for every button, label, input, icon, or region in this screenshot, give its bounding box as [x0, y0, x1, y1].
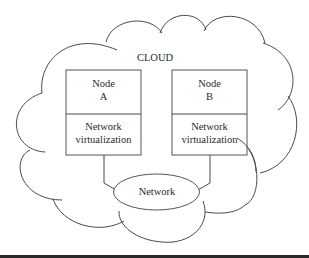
node-a-layer: Network virtualization [66, 120, 141, 146]
node-b-layer-line1: Network [172, 120, 247, 133]
node-b-layer-line2: virtualization [172, 133, 247, 146]
node-a-title: Node A [66, 77, 141, 103]
node-b-name-line1: Node [172, 77, 247, 90]
node-b-layer: Network virtualization [172, 120, 247, 146]
network-label: Network [116, 185, 198, 198]
node-a-layer-line2: virtualization [66, 133, 141, 146]
cloud-label: CLOUD [125, 51, 185, 64]
node-b-name-line2: B [172, 90, 247, 103]
diagram-canvas [0, 0, 309, 258]
node-a-layer-line1: Network [66, 120, 141, 133]
connector-a [104, 155, 116, 190]
node-a-name-line1: Node [66, 77, 141, 90]
connector-b [198, 155, 210, 190]
node-b-title: Node B [172, 77, 247, 103]
node-a-name-line2: A [66, 90, 141, 103]
